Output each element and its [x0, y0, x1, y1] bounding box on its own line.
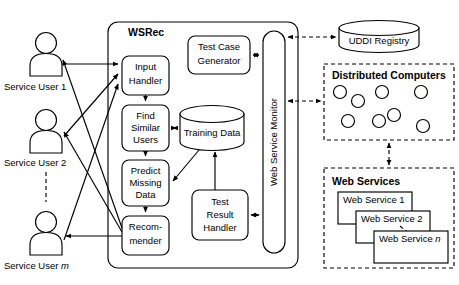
find-similar-users-node: Find Similar Users [122, 105, 169, 151]
predict-missing-data-node: Predict Missing Data [122, 160, 169, 206]
distributed-computers-group: Distributed Computers [324, 64, 454, 140]
predict-missing-data-label-line1: Predict [131, 165, 161, 176]
web-service-monitor-label: Web Service Monitor [268, 98, 279, 186]
web-service-2-label: Web Service 2 [361, 213, 423, 224]
web-service-monitor-node: Web Service Monitor [263, 31, 285, 253]
web-services-title: Web Services [332, 175, 400, 187]
web-service-n-label: Web Service n [379, 233, 441, 244]
user-body-icon [30, 54, 62, 77]
recommender-label-line1: Recom- [129, 221, 162, 232]
service-user-1-label: Service User 1 [4, 81, 66, 92]
service-user-m: Service User m [4, 212, 69, 271]
uddi-registry-cylinder-top [339, 21, 419, 36]
recommender-label-line2: mender [129, 235, 161, 246]
test-case-generator-label-line1: Test Case [198, 41, 240, 52]
uddi-registry-node: UDDI Registry [339, 21, 419, 53]
user-head-icon [36, 212, 57, 233]
service-user-m-label: Service User m [4, 260, 69, 271]
connector-training-data-to-predict [173, 150, 199, 181]
predict-missing-data-label-line3: Data [135, 189, 156, 200]
connector-group-users [63, 60, 122, 240]
computer-node-icon [376, 86, 389, 99]
web-service-1-label: Web Service 1 [343, 194, 405, 205]
computer-node-icon [342, 115, 355, 128]
user-head-icon [36, 110, 57, 131]
computer-node-icon [388, 109, 401, 122]
test-result-handler-label-line2: Result [207, 209, 234, 220]
connector-userm-to-input-handler [64, 84, 118, 240]
test-case-generator-label-line2: Generator [198, 55, 241, 66]
connector-user2-to-input-handler [64, 74, 118, 136]
web-services-group: Web Services Web Service 1 Web Service 2… [324, 168, 454, 268]
wsrec-title: WSRec [128, 26, 164, 38]
test-result-handler-node: Test Result Handler [192, 190, 248, 240]
predict-missing-data-label-line2: Missing [129, 177, 161, 188]
user-head-icon [36, 33, 57, 54]
training-data-cylinder-top [180, 106, 244, 123]
find-similar-users-label-line2: Similar [131, 122, 160, 133]
service-user-2: Service User 2 [4, 110, 66, 168]
find-similar-users-label-line3: Users [133, 134, 158, 145]
diagram-root: WSRec Service User 1 Service User 2 Serv… [0, 0, 459, 285]
input-handler-label-line1: Input [135, 61, 156, 72]
input-handler-label-line2: Handler [129, 75, 162, 86]
distributed-computers-title: Distributed Computers [332, 69, 446, 81]
uddi-registry-label: UDDI Registry [349, 35, 410, 46]
computer-node-icon [352, 95, 365, 108]
recommender-node: Recom- mender [122, 216, 169, 255]
user-body-icon [30, 233, 62, 256]
test-result-handler-label-line1: Test [211, 196, 229, 207]
connector-recommender-to-user1 [63, 60, 122, 228]
user-body-icon [30, 131, 62, 154]
test-result-handler-label-line3: Handler [203, 222, 236, 233]
computer-node-icon [415, 86, 428, 99]
input-handler-node: Input Handler [122, 56, 169, 95]
service-user-2-label: Service User 2 [4, 157, 66, 168]
computer-node-icon [417, 120, 430, 133]
find-similar-users-label-line1: Find [136, 110, 154, 121]
wsrec-architecture-diagram: WSRec Service User 1 Service User 2 Serv… [0, 0, 459, 285]
computer-node-icon [373, 115, 386, 128]
training-data-label: Training Data [184, 127, 241, 138]
service-user-1: Service User 1 [4, 33, 66, 92]
computer-node-icon [334, 86, 347, 99]
connector-group-external [288, 37, 389, 165]
test-case-generator-node: Test Case Generator [188, 36, 250, 74]
training-data-node: Training Data [180, 106, 244, 151]
